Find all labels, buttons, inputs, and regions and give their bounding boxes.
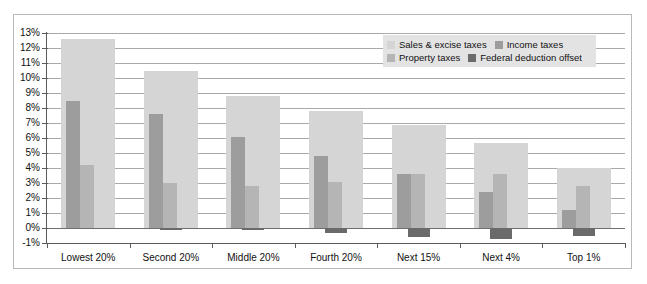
bar-income-taxes <box>479 192 493 228</box>
legend-label: Federal deduction offset <box>480 52 582 63</box>
bar-income-taxes <box>149 114 163 228</box>
legend-item-property-taxes: Property taxes <box>387 52 460 63</box>
legend-label: Property taxes <box>399 52 460 63</box>
x-axis-category-label: Next 4% <box>460 252 543 263</box>
bar-federal-deduction-offset <box>242 228 264 230</box>
x-axis-category-label: Second 20% <box>130 252 213 263</box>
bar-property-taxes <box>163 183 177 228</box>
x-axis-line <box>47 243 625 244</box>
bar-income-taxes <box>314 156 328 228</box>
x-axis-tick <box>212 243 213 248</box>
chart-container: 13%12%11%10%9%8%7%6%5%4%3%2%1%0%-1% Lowe… <box>0 0 647 284</box>
legend-row: Property taxes Federal deduction offset <box>387 51 590 64</box>
legend-swatch-icon <box>387 41 395 49</box>
bar-federal-deduction-offset <box>408 228 430 237</box>
bar-federal-deduction-offset <box>160 228 182 230</box>
bar-income-taxes <box>397 174 411 228</box>
bar-federal-deduction-offset <box>573 228 595 236</box>
legend-swatch-icon <box>468 54 476 62</box>
bar-property-taxes <box>576 186 590 228</box>
bar-property-taxes <box>245 186 259 228</box>
bar-income-taxes <box>562 210 576 228</box>
bar-property-taxes <box>80 165 94 228</box>
legend-item-federal-deduction-offset: Federal deduction offset <box>468 52 582 63</box>
x-axis-category-label: Fourth 20% <box>295 252 378 263</box>
legend-item-income-taxes: Income taxes <box>495 39 564 50</box>
x-axis-tick <box>295 243 296 248</box>
legend-row: Sales & excise taxes Income taxes <box>387 38 590 51</box>
x-axis-category-label: Top 1% <box>542 252 625 263</box>
x-axis-tick <box>47 243 48 248</box>
legend-label: Sales & excise taxes <box>399 39 487 50</box>
bar-federal-deduction-offset <box>325 228 347 233</box>
chart-legend: Sales & excise taxes Income taxes Proper… <box>383 35 596 67</box>
x-axis-tick <box>130 243 131 248</box>
bar-property-taxes <box>328 182 342 229</box>
bar-property-taxes <box>411 174 425 228</box>
legend-item-sales-excise-taxes: Sales & excise taxes <box>387 39 487 50</box>
x-axis-tick <box>625 243 626 248</box>
legend-label: Income taxes <box>507 39 564 50</box>
x-axis-tick <box>542 243 543 248</box>
x-axis-category-label: Lowest 20% <box>47 252 130 263</box>
x-axis-category-label: Next 15% <box>377 252 460 263</box>
bar-federal-deduction-offset <box>490 228 512 239</box>
bar-income-taxes <box>231 137 245 229</box>
x-axis-tick <box>460 243 461 248</box>
bar-income-taxes <box>66 101 80 229</box>
bar-property-taxes <box>493 174 507 228</box>
legend-swatch-icon <box>387 54 395 62</box>
x-axis-tick <box>377 243 378 248</box>
x-axis-category-label: Middle 20% <box>212 252 295 263</box>
legend-swatch-icon <box>495 41 503 49</box>
